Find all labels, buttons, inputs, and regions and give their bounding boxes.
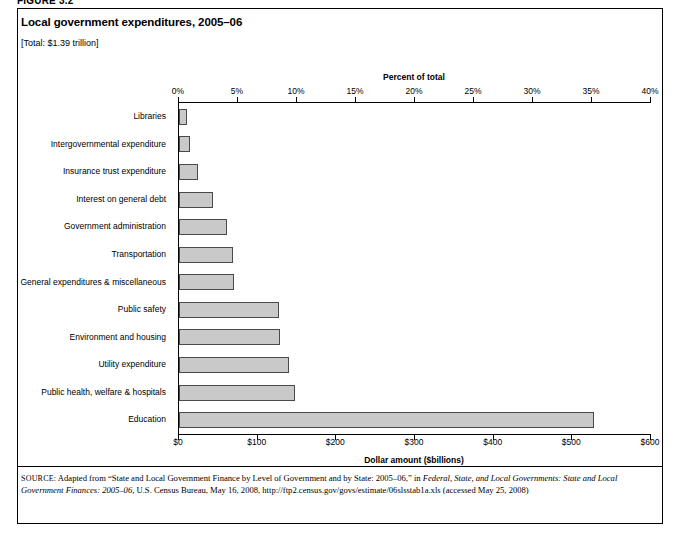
bar-row [179,213,650,241]
category-labels: LibrariesIntergovernmental expenditureIn… [0,103,172,434]
top-tick-label: 5% [231,86,243,96]
top-tick-label: 20% [405,86,422,96]
top-tick-label: 10% [287,86,304,96]
bar-row [179,186,650,214]
category-label: Public safety [0,296,172,324]
top-tick-label: 25% [464,86,481,96]
bottom-tick-label: $600 [641,437,660,447]
source-divider [18,466,662,467]
category-label: Government administration [0,213,172,241]
bar-row [179,269,650,297]
bars-layer [179,103,650,434]
bar [179,164,198,180]
bar [179,109,187,125]
bottom-tick-label: $200 [326,437,345,447]
source-line2: , U.S. Census Bureau, May 16, 2008, http… [132,485,440,495]
source-prefix: SOURCE: [21,474,56,483]
bar-row [179,131,650,159]
bar [179,192,213,208]
bottom-tick-label: $0 [173,437,182,447]
bar [179,136,190,152]
bottom-tick-label: $100 [247,437,266,447]
bar-row [179,241,650,269]
top-tick-label: 0% [172,86,184,96]
category-label: Insurance trust expenditure [0,158,172,186]
top-tick-label: 15% [346,86,363,96]
top-axis-tick-labels: 0%5%10%15%20%25%30%35%40% [178,86,650,97]
bar [179,412,594,428]
bottom-tick-label: $300 [405,437,424,447]
top-tick-label: 40% [641,86,658,96]
source-line1: Adapted from “State and Local Government… [56,473,423,483]
top-axis-title: Percent of total [178,72,650,82]
source-line3: (accessed May 25, 2008) [443,485,529,495]
figure-page: FIGURE 3.2 Local government expenditures… [0,0,682,534]
figure-label: FIGURE 3.2 [17,0,73,6]
bottom-axis-title: Dollar amount ($billions) [178,455,650,465]
bar [179,302,279,318]
chart-title: Local government expenditures, 2005–06 [21,16,242,28]
bottom-axis-tick-labels: $0$100$200$300$400$500$600 [178,437,650,448]
bar [179,329,280,345]
bar [179,247,233,263]
source-note: SOURCE: Adapted from “State and Local Go… [21,472,646,497]
top-tick-mark [650,97,651,103]
category-label: Education [0,406,172,434]
bottom-tick-label: $400 [483,437,502,447]
category-label: Intergovernmental expenditure [0,131,172,159]
category-label: Transportation [0,241,172,269]
category-label: Public health, welfare & hospitals [0,379,172,407]
bar-row [179,158,650,186]
bar-row [179,406,650,434]
bar-row [179,351,650,379]
category-label: Utility expenditure [0,351,172,379]
bar-row [179,324,650,352]
category-label: General expenditures & miscellaneous [0,269,172,297]
chart-subtitle: [Total: $1.39 trillion] [21,38,99,48]
bar [179,385,295,401]
bar-row [179,379,650,407]
top-tick-label: 35% [582,86,599,96]
category-label: Environment and housing [0,324,172,352]
category-label: Interest on general debt [0,186,172,214]
category-label: Libraries [0,103,172,131]
bar [179,274,234,290]
bar-row [179,296,650,324]
top-tick-label: 30% [523,86,540,96]
bar [179,357,289,373]
bar [179,219,227,235]
bar-row [179,103,650,131]
bottom-tick-label: $500 [562,437,581,447]
source-line1-italic: Federal, State, and Local Governments: [423,473,561,483]
